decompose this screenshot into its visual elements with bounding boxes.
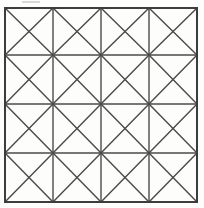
figure-root — [0, 0, 204, 208]
grid-diagram — [0, 0, 204, 208]
